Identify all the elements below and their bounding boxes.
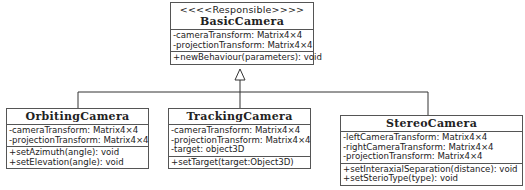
class-orbiting-camera: OrbitingCamera -cameraTransform: Matrix4… xyxy=(6,108,149,169)
class-header: StereoCamera xyxy=(341,116,522,132)
operation: +setElevation(angle): void xyxy=(9,158,146,168)
class-name: OrbitingCamera xyxy=(9,110,146,123)
class-header: TrackingCamera xyxy=(169,109,310,125)
class-header: <<<<Responsible>>>> BasicCamera xyxy=(171,3,313,30)
class-name: BasicCamera xyxy=(173,15,311,28)
attribute: -projectionTransform: Matrix4×4 xyxy=(343,152,520,162)
operation: +newBehaviour(parameters): void xyxy=(173,53,311,63)
operation: +setTarget(target:Object3D) xyxy=(171,158,308,168)
class-header: OrbitingCamera xyxy=(7,109,148,125)
operation: +setSterioType(type): void xyxy=(343,174,520,184)
attribute: -target: object3D xyxy=(171,145,308,155)
attribute: -projectionTransform: Matrix4×4 xyxy=(9,136,146,146)
operations-section: +setInteraxialSeparation(distance): void… xyxy=(341,163,522,185)
operations-section: +newBehaviour(parameters): void xyxy=(171,51,313,64)
stereotype: <<<<Responsible>>>> xyxy=(173,4,311,15)
operations-section: +setAzimuth(angle): void +setElevation(a… xyxy=(7,146,148,168)
attributes-section: -cameraTransform: Matrix4×4 -projectionT… xyxy=(169,125,310,156)
attributes-section: -cameraTransform: Matrix4×4 -projectionT… xyxy=(171,30,313,51)
class-name: TrackingCamera xyxy=(171,110,308,123)
class-basic-camera: <<<<Responsible>>>> BasicCamera -cameraT… xyxy=(170,2,314,65)
attributes-section: -cameraTransform: Matrix4×4 -projectionT… xyxy=(7,125,148,146)
operations-section: +setTarget(target:Object3D) xyxy=(169,156,310,169)
class-stereo-camera: StereoCamera -leftCameraTransform: Matri… xyxy=(340,115,523,186)
class-name: StereoCamera xyxy=(343,117,520,130)
attribute: -projectionTransform: Matrix4×4 xyxy=(173,41,311,51)
generalization-arrowhead-icon xyxy=(235,69,245,80)
class-tracking-camera: TrackingCamera -cameraTransform: Matrix4… xyxy=(168,108,311,169)
attributes-section: -leftCameraTransform: Matrix4×4 -rightCa… xyxy=(341,132,522,163)
